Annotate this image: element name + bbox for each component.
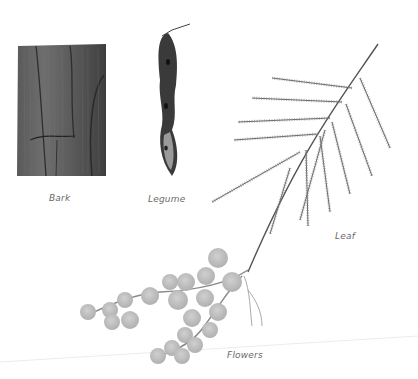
legume-illustration (158, 24, 190, 176)
label-flowers: Flowers (227, 350, 263, 360)
label-leaf: Leaf (335, 231, 355, 241)
flowers-illustration (80, 248, 262, 364)
bark-illustration (17, 44, 106, 176)
label-bark: Bark (49, 193, 70, 203)
botanical-illustration (0, 0, 418, 379)
leaf-illustration (212, 44, 390, 272)
label-legume: Legume (148, 194, 185, 204)
ground-line (0, 336, 418, 362)
